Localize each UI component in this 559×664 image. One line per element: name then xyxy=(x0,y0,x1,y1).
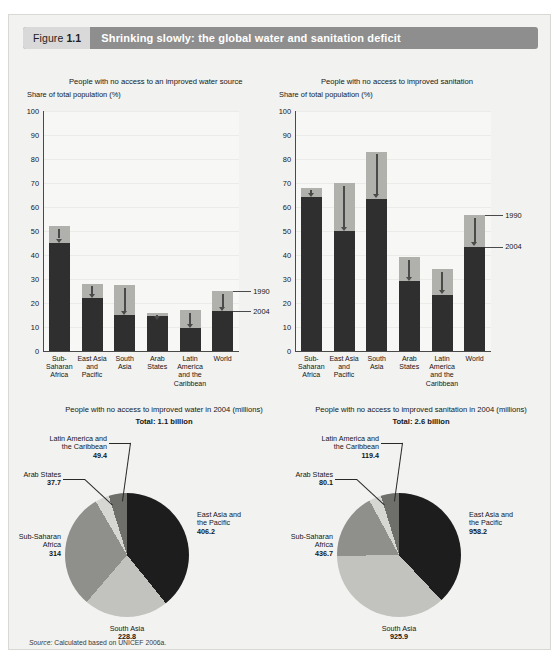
x-tick-label-line: Asia xyxy=(370,363,384,370)
water-access-bar-x-axis xyxy=(43,351,239,352)
gridline xyxy=(43,183,239,184)
water-access-bar-plot-area xyxy=(43,111,239,351)
x-tick-label-line: America xyxy=(429,363,455,370)
water-access-bar-y-axis xyxy=(43,111,44,352)
y-tick-label: 80 xyxy=(23,155,39,164)
bar-2004 xyxy=(464,247,485,351)
change-arrow-shaft xyxy=(58,229,60,239)
x-tick-label-line: and the xyxy=(178,371,201,378)
y-tick-label: 100 xyxy=(275,107,291,116)
change-arrow-head xyxy=(219,307,225,311)
pie-slice-value: 49.4 xyxy=(93,451,107,460)
x-tick-label-line: and the xyxy=(430,371,453,378)
change-arrow-shaft xyxy=(343,186,345,227)
pie-slice-label: Sub-SaharanAfrica314 xyxy=(0,533,61,558)
gridline xyxy=(295,279,491,280)
change-arrow-shaft xyxy=(408,260,410,277)
bar-2004 xyxy=(399,281,420,351)
bar-2004 xyxy=(301,197,322,351)
source-label: Source: xyxy=(29,639,52,646)
pie-slice-value: 958.2 xyxy=(469,527,487,536)
change-arrow-head xyxy=(341,227,347,231)
source-text: Calculated based on UNICEF 2006a. xyxy=(54,639,166,646)
change-arrow-head xyxy=(439,290,445,294)
water-pie-total: Total: 1.1 billion xyxy=(39,417,289,426)
pie-slice-value: 119.4 xyxy=(361,451,379,460)
x-tick-label-line: Pacific xyxy=(82,371,103,378)
gridline xyxy=(295,255,491,256)
gridline xyxy=(43,135,239,136)
legend-label-1990: 1990 xyxy=(253,287,269,296)
bar-2004 xyxy=(212,311,233,351)
gridline xyxy=(43,231,239,232)
figure-number: Figure 1.1 xyxy=(23,27,90,49)
pie-slice-value: 80.1 xyxy=(319,478,333,487)
pie-label-leader xyxy=(335,479,357,480)
y-tick-label: 10 xyxy=(275,323,291,332)
figure-panel: Figure 1.1 Shrinking slowly: the global … xyxy=(8,14,551,650)
bar-2004 xyxy=(366,199,387,351)
legend-leader-2004 xyxy=(233,311,251,312)
change-arrow-shaft xyxy=(222,294,224,307)
y-tick-label: 70 xyxy=(275,179,291,188)
change-arrow-head xyxy=(406,277,412,281)
sanitation-access-bar-x-axis xyxy=(295,351,491,352)
bar-2004 xyxy=(180,328,201,351)
pie-slice-label: East Asia andthe Pacific958.2 xyxy=(469,511,513,536)
pie-slice-value: 314 xyxy=(49,549,61,558)
change-arrow-head xyxy=(56,239,62,243)
pie-slice-label: East Asia andthe Pacific406.2 xyxy=(197,511,241,536)
sanitation-access-bar-title: People with no access to improved sanita… xyxy=(321,77,473,86)
change-arrow-head xyxy=(121,311,127,315)
bar-2004 xyxy=(432,295,453,351)
bar-2004 xyxy=(114,315,135,351)
water-pie-disc xyxy=(65,493,189,617)
y-tick-label: 90 xyxy=(23,131,39,140)
pie-slice-value: 406.2 xyxy=(197,527,215,536)
gridline xyxy=(43,327,239,328)
y-tick-label: 20 xyxy=(23,299,39,308)
change-arrow-head xyxy=(89,294,95,298)
source-note: Source: Calculated based on UNICEF 2006a… xyxy=(29,639,166,646)
gridline xyxy=(295,111,491,112)
change-arrow-head xyxy=(187,324,193,328)
change-arrow-shaft xyxy=(376,154,378,194)
y-tick-label: 40 xyxy=(275,251,291,260)
x-tick-label-line: World xyxy=(466,355,484,362)
x-tick-label-line: Caribbean xyxy=(174,380,206,387)
sanitation-pie-title: People with no access to improved sanita… xyxy=(295,405,547,414)
x-tick-label: World xyxy=(449,355,501,363)
change-arrow-shaft xyxy=(91,286,93,293)
x-tick-label: World xyxy=(197,355,249,363)
figure-title: Shrinking slowly: the global water and s… xyxy=(90,27,400,49)
gridline xyxy=(295,183,491,184)
gridline xyxy=(295,231,491,232)
gridline xyxy=(295,135,491,136)
pie-label-leader xyxy=(381,443,403,444)
gridline xyxy=(295,159,491,160)
x-tick-label-line: Latin xyxy=(182,355,197,362)
sanitation-pie-total: Total: 2.6 billion xyxy=(295,417,547,426)
gridline xyxy=(43,255,239,256)
y-tick-label: 10 xyxy=(23,323,39,332)
y-tick-label: 100 xyxy=(23,107,39,116)
x-tick-label-line: Arab xyxy=(150,355,165,362)
pie-slice-label: Latin America andthe Caribbean49.4 xyxy=(11,435,107,460)
x-tick-label-line: Arab xyxy=(402,355,417,362)
x-tick-label-line: Latin xyxy=(434,355,449,362)
pie-slice-label: Latin America andthe Caribbean119.4 xyxy=(283,435,379,460)
legend-label-2004: 2004 xyxy=(253,307,269,316)
gridline xyxy=(43,303,239,304)
y-tick-label: 30 xyxy=(23,275,39,284)
y-tick-label: 30 xyxy=(275,275,291,284)
gridline xyxy=(295,303,491,304)
x-tick-label-line: and xyxy=(86,363,98,370)
legend-leader-2004 xyxy=(485,247,503,248)
figure-header: Figure 1.1 Shrinking slowly: the global … xyxy=(23,27,538,49)
y-tick-label: 50 xyxy=(275,227,291,236)
y-tick-label: 60 xyxy=(275,203,291,212)
y-tick-label: 70 xyxy=(23,179,39,188)
sanitation-access-bar-ylabel: Share of total population (%) xyxy=(279,90,373,99)
water-access-bar-title: People with no access to an improved wat… xyxy=(69,77,242,86)
bar-2004 xyxy=(82,298,103,351)
